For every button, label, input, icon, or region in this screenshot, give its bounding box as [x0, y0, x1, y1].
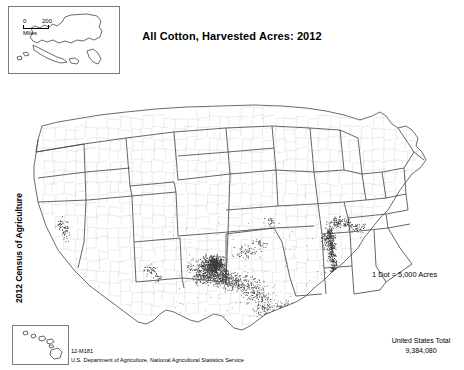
- alaska-scale-max: 200: [42, 18, 52, 24]
- map-page: All Cotton, Harvested Acres: 2012 2012 C…: [0, 0, 464, 370]
- agency-name: U.S. Department of Agriculture, National…: [71, 356, 244, 365]
- us-total-box: United States Total 9,384,080: [381, 336, 461, 356]
- us-total-value: 9,384,080: [381, 346, 461, 356]
- conus-map: 0 100 Miles: [14, 82, 457, 350]
- alaska-inset: 0 200 Miles: [8, 6, 120, 74]
- alaska-scale-zero: 0: [23, 18, 26, 24]
- alaska-map: [9, 7, 119, 73]
- alaska-scale-bar: 0 200 Miles: [23, 18, 49, 36]
- us-total-label: United States Total: [381, 336, 461, 346]
- dot-value-legend: 1 Dot = 5,000 Acres: [372, 270, 437, 279]
- map-code: 12-M181: [71, 347, 244, 356]
- conus-map-svg: [14, 82, 457, 350]
- alaska-scale-bar-graphic: [23, 25, 49, 29]
- source-credit: 12-M181 U.S. Department of Agriculture, …: [71, 347, 244, 364]
- alaska-scale-unit: Miles: [23, 30, 49, 36]
